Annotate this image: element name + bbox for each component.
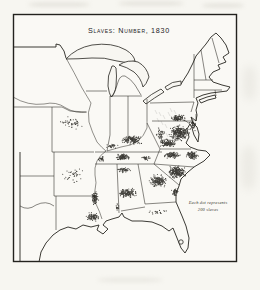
legend-line-1: Each dot represents xyxy=(188,200,228,205)
scanned-map-page: Slaves: Number, 1830 xyxy=(0,0,260,290)
legend-line-2: 200 slaves xyxy=(198,207,219,212)
lake-okeechobee xyxy=(179,240,183,244)
map-title: Slaves: Number, 1830 xyxy=(88,26,170,35)
dot-density-map-figure: Slaves: Number, 1830 xyxy=(0,0,260,290)
